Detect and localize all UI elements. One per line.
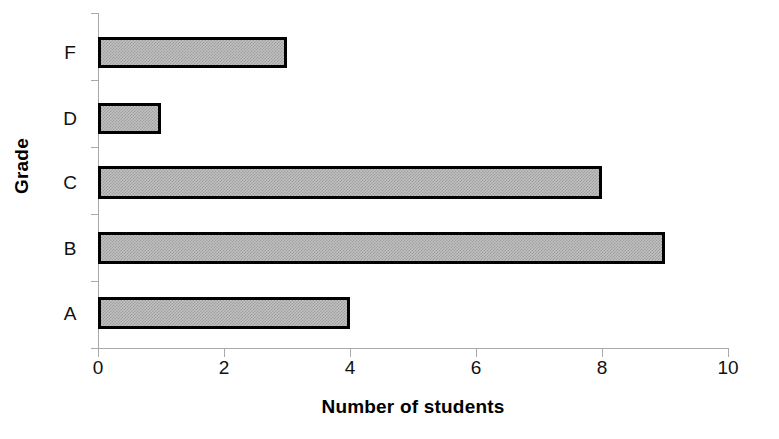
bar-chart: F D C B A 0 2 4 6 8 10 Number of student… (0, 0, 779, 439)
bar-b (98, 232, 665, 264)
y-tick-label-a: A (50, 304, 90, 323)
y-tick-label-f: F (50, 43, 90, 62)
x-axis-title: Number of students (98, 396, 728, 418)
y-axis-tick (91, 13, 99, 14)
x-axis-tick (224, 349, 225, 357)
x-tick-label-8: 8 (572, 358, 632, 377)
bar-d (98, 103, 161, 134)
y-axis-title: Grade (11, 96, 33, 236)
x-tick-label-10: 10 (698, 358, 758, 377)
y-tick-label-d: D (50, 109, 90, 128)
x-axis-line (98, 348, 729, 349)
x-tick-label-6: 6 (446, 358, 506, 377)
y-axis-tick (91, 214, 99, 215)
y-tick-label-b: B (50, 239, 90, 258)
y-tick-label-b-wrap: B (38, 239, 90, 259)
y-axis-tick (91, 147, 99, 148)
y-tick-label-c-wrap: C (38, 173, 90, 193)
x-tick-label-4: 4 (320, 358, 380, 377)
y-tick-label-f-wrap: F (38, 43, 90, 63)
y-tick-label-d-wrap: D (38, 109, 90, 129)
bar-c (98, 166, 602, 199)
x-tick-label-0: 0 (68, 358, 128, 377)
bar-a (98, 297, 350, 329)
y-axis-tick (91, 80, 99, 81)
y-tick-label-a-wrap: A (38, 304, 90, 324)
x-axis-tick (98, 349, 99, 357)
y-tick-label-c: C (50, 173, 90, 192)
x-axis-tick (602, 349, 603, 357)
y-axis-tick (91, 281, 99, 282)
x-axis-tick (350, 349, 351, 357)
x-tick-label-2: 2 (194, 358, 254, 377)
x-axis-tick (476, 349, 477, 357)
x-axis-tick (728, 349, 729, 357)
bar-f (98, 37, 287, 68)
